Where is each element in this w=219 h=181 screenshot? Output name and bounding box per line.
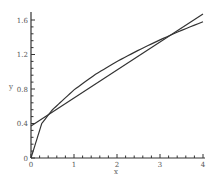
- x-tick-label: 0: [29, 161, 33, 169]
- y-tick-label: 0.8: [17, 86, 28, 94]
- chart-plot: 0123400.40.81.21.6 x y: [0, 0, 219, 181]
- y-axis: [31, 12, 35, 158]
- y-tick-label: 0: [24, 155, 28, 163]
- y-axis-label: y: [8, 83, 13, 91]
- x-tick-label: 4: [201, 161, 206, 169]
- y-tick-label: 0.4: [17, 120, 29, 128]
- linear-approximation-line: [31, 14, 203, 126]
- curve-line: [31, 22, 203, 158]
- y-tick-label: 1.2: [17, 51, 28, 59]
- x-tick-label: 3: [158, 161, 162, 169]
- x-axis-label: x: [114, 168, 118, 176]
- x-axis: [31, 154, 205, 158]
- x-tick-label: 1: [72, 161, 76, 169]
- series-group: [31, 14, 203, 158]
- y-tick-label: 1.6: [17, 17, 29, 25]
